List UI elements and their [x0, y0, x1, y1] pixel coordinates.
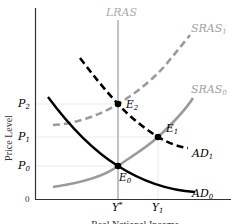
p1-label: P1	[17, 130, 30, 144]
sras1-curve	[53, 35, 190, 125]
p2-label: P2	[17, 97, 30, 111]
sras0-label: SRAS0	[191, 83, 227, 97]
x-axis-title: Real National Income	[91, 219, 179, 224]
y-star-label: Y*	[112, 201, 123, 213]
lras-label: LRAS	[105, 6, 138, 19]
e0-point	[115, 163, 122, 170]
e1-point	[155, 134, 162, 141]
e2-label: E2	[125, 98, 139, 112]
y1-label: Y1	[152, 201, 163, 215]
sras1-label: SRAS1	[191, 22, 227, 36]
ad0-label: AD0	[191, 187, 214, 201]
p0-label: P0	[17, 159, 30, 173]
ad1-curve	[80, 58, 188, 148]
e2-point	[115, 101, 122, 108]
e1-label: E1	[165, 122, 178, 136]
ad-as-diagram: LRAS SRAS1 SRAS0 AD1 AD0 E2 E1 E0 P2 P1 …	[0, 0, 231, 224]
origin-label: 0	[25, 194, 30, 204]
y-axis-title: Price Level	[3, 115, 14, 161]
ad1-label: AD1	[191, 147, 213, 161]
